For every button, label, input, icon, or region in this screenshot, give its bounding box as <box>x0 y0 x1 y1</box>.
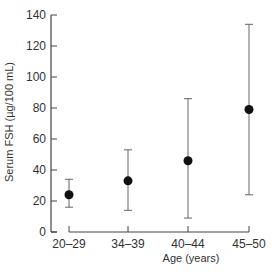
y-tick-label: 40 <box>33 163 47 177</box>
x-axis: 20–2934–3940–4445–50 <box>51 226 266 251</box>
y-tick-label: 120 <box>26 39 46 53</box>
fsh-by-age-chart: 020406080100120140 20–2934–3940–4445–50 … <box>0 0 273 276</box>
data-point-group <box>124 150 133 210</box>
x-tick-label: 20–29 <box>52 237 86 251</box>
mean-marker <box>124 176 133 185</box>
y-tick-label: 60 <box>33 132 47 146</box>
data-point-group <box>245 24 254 195</box>
x-axis-title: Age (years) <box>163 252 220 264</box>
y-tick-label: 0 <box>39 225 46 239</box>
y-tick-label: 20 <box>33 194 47 208</box>
y-axis: 020406080100120140 <box>26 8 57 239</box>
data-point-group <box>184 99 193 218</box>
x-tick-label: 45–50 <box>232 237 266 251</box>
y-tick-label: 100 <box>26 70 46 84</box>
mean-marker <box>65 190 74 199</box>
y-tick-label: 80 <box>33 101 47 115</box>
mean-marker <box>245 105 254 114</box>
y-axis-title: Serum FSH (µg/100 mL) <box>3 62 15 182</box>
data-point-group <box>65 179 74 207</box>
x-tick-label: 34–39 <box>111 237 145 251</box>
y-tick-label: 140 <box>26 8 46 22</box>
data-points <box>65 24 254 218</box>
x-tick-label: 40–44 <box>171 237 205 251</box>
mean-marker <box>184 156 193 165</box>
